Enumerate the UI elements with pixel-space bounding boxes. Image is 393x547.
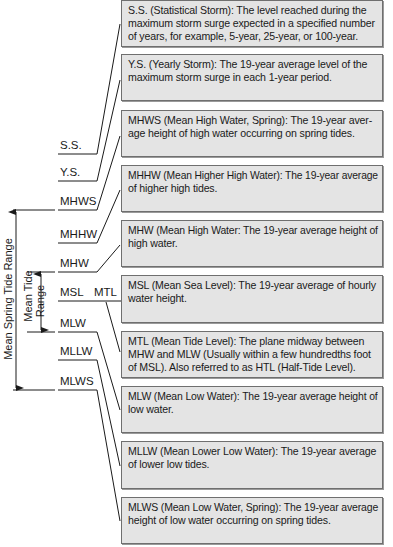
definition-text: of higher high tides. [128, 182, 377, 195]
definition-text: of MSL). Also referred to as HTL (Half-T… [128, 361, 377, 374]
definition-box-mhw: MHW (Mean High Water: The 19-year averag… [121, 220, 383, 267]
definition-box-mhhw: MHHW (Mean Higher High Water): The 19-ye… [121, 165, 383, 212]
spring-tide-range-label: Mean Spring Tide Range [2, 229, 14, 369]
level-label-ys: Y.S. [60, 166, 80, 178]
definition-box-mlws: MLWS (Mean Low Water, Spring): The 19-ye… [121, 497, 383, 544]
definition-text: maximum storm surge expected in a specif… [128, 17, 377, 30]
definition-text: water height. [128, 292, 377, 305]
definition-text: MLLW (Mean Lower Low Water): The 19-year… [128, 445, 377, 458]
mean-tide-range-label-line1: Mean Tide [22, 268, 34, 324]
mlws-connector [58, 390, 120, 521]
definition-box-msl: MSL (Mean Sea Level): The 19-year averag… [121, 275, 383, 323]
definition-text: MHWS (Mean High Water, Spring): The 19-y… [128, 114, 377, 127]
mtl-connector [106, 302, 120, 352]
level-label-msl: MSL [60, 286, 84, 298]
definition-box-mlw: MLW (Mean Low Water): The 19-year averag… [121, 386, 383, 433]
definition-text: Y.S. (Yearly Storm): The 19-year average… [128, 58, 377, 71]
definition-box-mhws: MHWS (Mean High Water, Spring): The 19-y… [121, 110, 383, 157]
level-label-mtl: MTL [94, 286, 117, 298]
definition-text: maximum storm surge in each 1-year perio… [128, 71, 377, 84]
mlw-connector [58, 332, 120, 410]
ss-connector [58, 24, 120, 154]
definition-text: high water. [128, 237, 377, 250]
definition-text: age height of high water occurring on sp… [128, 127, 377, 140]
definition-text: MHW and MLW (Usually within a few hundre… [128, 348, 377, 361]
definition-text: MLW (Mean Low Water): The 19-year averag… [128, 390, 373, 403]
definition-text: low water. [128, 403, 377, 416]
definition-box-mllw: MLLW (Mean Lower Low Water): The 19-year… [121, 441, 383, 489]
definition-text: MLWS (Mean Low Water, Spring): The 19-ye… [128, 501, 374, 514]
mean-tide-range-label-line2: Range [34, 281, 46, 321]
definition-text: S.S. (Statistical Storm): The level reac… [128, 4, 377, 17]
level-label-mlws: MLWS [60, 375, 94, 387]
level-label-mhhw: MHHW [60, 228, 97, 240]
level-label-mhw: MHW [60, 257, 89, 269]
definition-box-ss: S.S. (Statistical Storm): The level reac… [121, 0, 383, 47]
definition-text: of lower low tides. [128, 458, 377, 471]
definition-text: MHW (Mean High Water: The 19-year averag… [128, 224, 372, 237]
definition-text: MTL (Mean Tide Level): The plane midway … [128, 335, 377, 348]
level-label-mlw: MLW [60, 317, 86, 329]
definition-text: MSL (Mean Sea Level): The 19-year averag… [128, 279, 377, 292]
definition-box-ys: Y.S. (Yearly Storm): The 19-year average… [121, 54, 383, 101]
definition-text: height of low water occurring on spring … [128, 514, 377, 527]
definition-text: of years, for example, 5-year, 25-year, … [128, 30, 377, 43]
level-label-mllw: MLLW [60, 345, 92, 357]
level-label-ss: S.S. [60, 139, 82, 151]
definition-box-mtl: MTL (Mean Tide Level): The plane midway … [121, 331, 383, 378]
definition-text: MHHW (Mean Higher High Water): The 19-ye… [128, 169, 370, 182]
level-label-mhws: MHWS [60, 195, 96, 207]
